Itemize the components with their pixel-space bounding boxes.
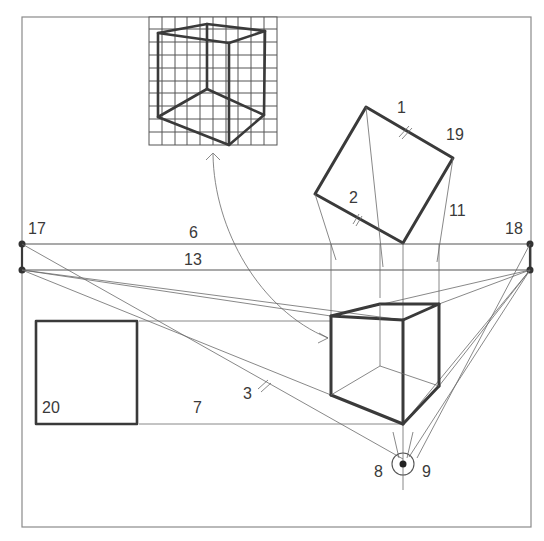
label-8: 8 — [374, 464, 383, 480]
label-17: 17 — [28, 221, 46, 237]
perspective-diagram: 1 19 2 11 17 6 18 13 3 20 7 8 9 — [0, 0, 544, 541]
perspective-cube — [331, 304, 439, 424]
vanishing-lines — [22, 244, 530, 490]
grid-reference-inset — [149, 17, 277, 145]
label-7: 7 — [193, 400, 202, 416]
label-1: 1 — [397, 100, 406, 116]
label-19: 19 — [446, 127, 464, 143]
label-2: 2 — [349, 190, 358, 206]
station-point — [400, 461, 407, 468]
diagram-canvas — [0, 0, 544, 541]
plan-square-19 — [315, 107, 453, 243]
plan-tick-marks — [353, 126, 412, 226]
transfer-arc — [213, 154, 328, 338]
label-3: 3 — [243, 386, 252, 402]
sight-lines — [315, 107, 453, 320]
tick-3 — [258, 380, 271, 392]
label-20: 20 — [42, 400, 60, 416]
label-13: 13 — [184, 252, 202, 268]
label-18: 18 — [505, 221, 523, 237]
label-9: 9 — [422, 464, 431, 480]
label-11: 11 — [449, 203, 466, 219]
label-6: 6 — [189, 225, 198, 241]
